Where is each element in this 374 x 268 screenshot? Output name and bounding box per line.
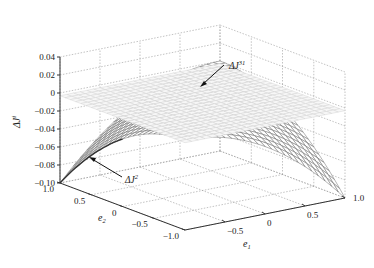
e2-tick-label: 0.5 [74, 196, 86, 206]
svg-text:ΔJ31: ΔJ31 [228, 59, 245, 71]
z-tick-label: −0.04 [34, 124, 55, 134]
z-tick-label: −0.08 [34, 160, 55, 170]
z-axis-label: ΔJi [10, 116, 22, 129]
z-tick-label: 0.04 [39, 52, 55, 62]
svg-text:ΔJ2: ΔJ2 [124, 173, 139, 185]
e1-tick-label: 0 [267, 218, 272, 228]
z-tick-label: −0.02 [34, 106, 55, 116]
annotation-delta-j2: ΔJ2 [89, 157, 139, 185]
z-tick-label: 0.02 [39, 70, 55, 80]
e1-tick-label: 1.0 [353, 193, 365, 203]
e2-tick-label: 0 [112, 208, 117, 218]
y-axis-label: e2 [98, 212, 106, 224]
annotation-sup-31: 31 [238, 59, 246, 66]
z-tick-label: −0.06 [34, 142, 55, 152]
surface-plot: 0.040.020−0.02−0.04−0.06−0.08−0.101.00.5… [0, 0, 374, 268]
e1-tick-label: −0.5 [227, 226, 244, 236]
z-tick-label: 0 [51, 88, 56, 98]
e2-tick-label: −0.5 [131, 219, 148, 229]
e2-tick-label: 1.0 [43, 184, 55, 194]
x-axis-label: e1 [243, 238, 251, 250]
e2-tick-label: −1.0 [163, 231, 180, 241]
e1-tick-label: 0.5 [307, 210, 319, 220]
